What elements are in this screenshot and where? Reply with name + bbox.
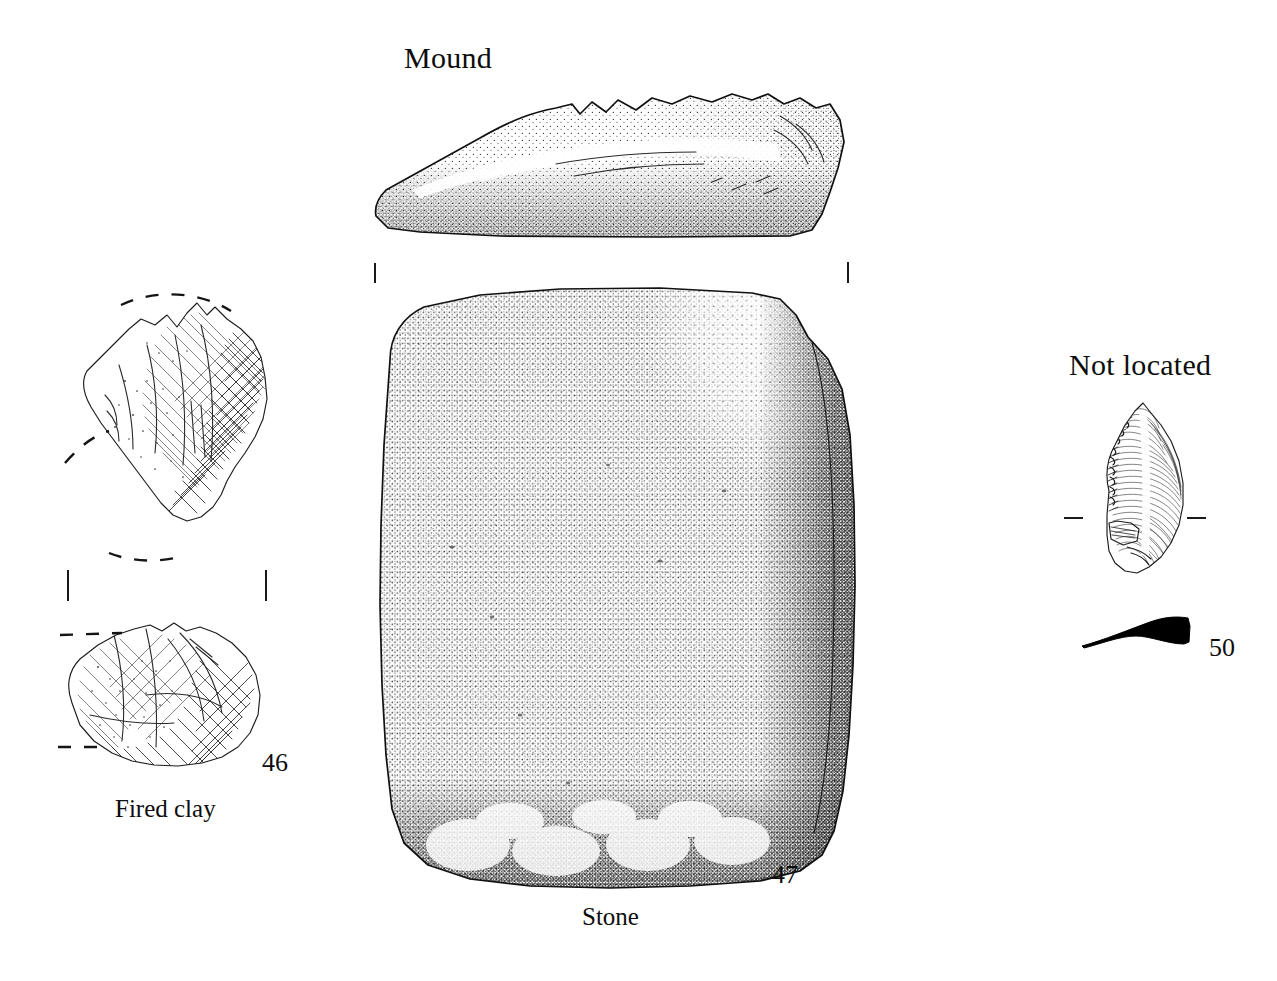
heading-mound: Mound xyxy=(404,41,492,75)
registration-tick-stone-left xyxy=(374,263,376,283)
figure-flint-tool xyxy=(1085,395,1200,595)
heading-not-located: Not located xyxy=(1069,348,1211,382)
caption-stone: Stone xyxy=(582,903,639,931)
figure-stone-plan xyxy=(360,285,870,900)
registration-tick-clay-right xyxy=(265,570,267,601)
catalogue-number-flint: 50 xyxy=(1209,633,1235,663)
artefact-plate: Mound Not located xyxy=(0,0,1277,981)
catalogue-number-stone: 47 xyxy=(772,860,798,890)
figure-stone-profile xyxy=(360,90,860,260)
figure-flint-section xyxy=(1080,614,1205,654)
registration-tick-clay-left xyxy=(67,570,69,601)
caption-fired-clay: Fired clay xyxy=(115,795,216,823)
catalogue-number-fired-clay: 46 xyxy=(262,748,288,778)
registration-tick-flint-left xyxy=(1064,517,1083,519)
figure-fired-clay-upper xyxy=(55,285,315,585)
registration-tick-stone-right xyxy=(847,262,849,283)
